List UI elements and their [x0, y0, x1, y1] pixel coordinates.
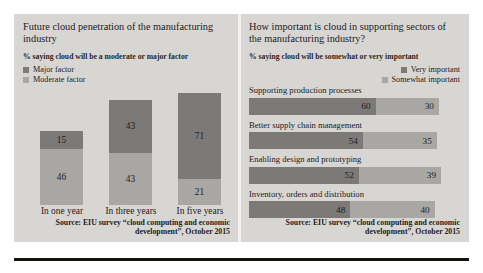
legend-swatch-icon — [23, 77, 29, 83]
column-segment-moderate: 43 — [109, 153, 152, 205]
bar-segment-somewhat-important: 35 — [363, 132, 437, 149]
left-chart-source: Source: EIU survey “cloud computing and … — [23, 218, 230, 237]
axis-label-in-one-year: In one year — [36, 206, 88, 217]
bar-segment-very-important: 60 — [249, 98, 376, 115]
right-chart-panel: How important is cloud in supporting sec… — [241, 14, 469, 242]
legend-label: Very important — [411, 65, 460, 75]
left-chart-subtitle: % saying cloud will be a moderate or maj… — [23, 52, 230, 61]
legend-swatch-icon — [382, 77, 388, 83]
legend-item-somewhat-important: Somewhat important — [249, 75, 460, 85]
legend-item-major-factor: Major factor — [23, 65, 230, 75]
bar-row-label: Supporting production processes — [249, 85, 460, 96]
legend-swatch-icon — [23, 67, 29, 73]
column-segment-major: 43 — [109, 100, 152, 152]
bar-row-label: Inventory, orders and distribution — [249, 189, 460, 200]
legend-item-very-important: Very important — [249, 65, 460, 75]
bar-track: 60 30 — [249, 98, 460, 115]
figure-container: Future cloud penetration of the manufact… — [0, 0, 483, 273]
bar-segment-somewhat-important: 30 — [376, 98, 439, 115]
left-chart-legend: Major factor Moderate factor — [23, 65, 230, 85]
right-chart-source: Source: EIU survey “cloud computing and … — [249, 218, 460, 237]
right-chart-legend: Very important Somewhat important — [249, 65, 460, 85]
bar-segment-very-important: 52 — [249, 167, 359, 184]
bar-row: Supporting production processes 60 30 — [249, 85, 460, 115]
column-segment-moderate: 46 — [40, 149, 83, 205]
left-chart-title: Future cloud penetration of the manufact… — [23, 21, 230, 46]
column-segment-major: 71 — [178, 93, 221, 180]
bar-row: Enabling design and prototyping 52 39 — [249, 154, 460, 184]
left-chart-panel: Future cloud penetration of the manufact… — [14, 14, 238, 242]
bottom-rule-divider — [14, 258, 469, 261]
charts-panel-group: Future cloud penetration of the manufact… — [14, 14, 469, 242]
bar-track: 48 40 — [249, 201, 460, 218]
horizontal-bar-chart-plot: Supporting production processes 60 30 Be… — [249, 85, 460, 223]
column-group-in-three-years: 43 43 — [109, 100, 152, 205]
bar-segment-very-important: 48 — [249, 201, 350, 218]
column-segment-major: 15 — [40, 131, 83, 149]
legend-item-moderate-factor: Moderate factor — [23, 75, 230, 85]
right-chart-subtitle: % saying cloud will be somewhat or very … — [249, 52, 460, 61]
bar-row: Inventory, orders and distribution 48 40 — [249, 189, 460, 219]
bar-segment-somewhat-important: 40 — [350, 201, 434, 218]
legend-label: Major factor — [33, 65, 74, 75]
bar-row-label: Better supply chain management — [249, 120, 460, 131]
axis-label-in-five-years: In five years — [174, 206, 226, 217]
bar-segment-very-important: 54 — [249, 132, 363, 149]
axis-label-in-three-years: In three years — [105, 206, 157, 217]
bar-track: 54 35 — [249, 132, 460, 149]
column-group-in-five-years: 71 21 — [178, 93, 221, 205]
legend-swatch-icon — [401, 67, 407, 73]
bar-track: 52 39 — [249, 167, 460, 184]
column-group-in-one-year: 15 46 — [40, 131, 83, 205]
bar-row: Better supply chain management 54 35 — [249, 120, 460, 150]
stacked-column-chart-plot: 15 46 43 43 71 21 — [23, 93, 230, 205]
bar-segment-somewhat-important: 39 — [359, 167, 441, 184]
legend-label: Somewhat important — [392, 75, 460, 85]
bar-row-label: Enabling design and prototyping — [249, 154, 460, 165]
right-chart-title: How important is cloud in supporting sec… — [249, 21, 460, 46]
legend-label: Moderate factor — [33, 75, 86, 85]
column-segment-moderate: 21 — [178, 179, 221, 205]
